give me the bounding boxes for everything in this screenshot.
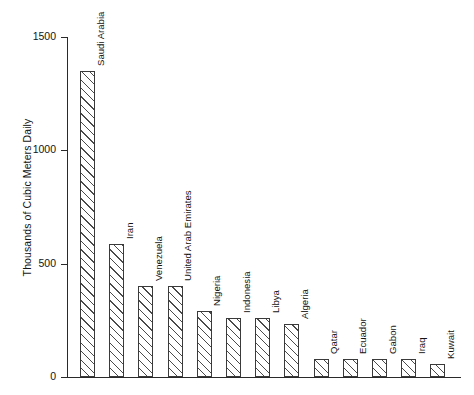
bar-kuwait (430, 364, 445, 377)
bar-qatar (314, 359, 329, 377)
bar-iraq (401, 359, 416, 377)
bar-label-nigeria: Nigeria (210, 276, 224, 306)
bar-indonesia (226, 318, 241, 377)
bar-nigeria (197, 311, 212, 377)
bar-label-iraq: Iraq (415, 337, 429, 354)
bar-label-kuwait: Kuwait (444, 330, 458, 359)
bar-algeria (284, 324, 299, 377)
y-tick-mark-0 (61, 377, 67, 378)
y-axis-title: Thousands of Cubic Meters Daily (18, 0, 36, 395)
bar-iran (109, 244, 124, 377)
bar-chart: Thousands of Cubic Meters Daily 0 500 10… (0, 0, 474, 395)
bar-label-saudi-arabia: Saudi Arabia (94, 12, 108, 66)
y-tick-label-1000: 1000 (3, 143, 56, 155)
y-tick-label-0: 0 (3, 370, 56, 382)
x-axis-line (67, 377, 461, 378)
bar-label-libya: Libya (269, 290, 283, 313)
y-tick-mark-500 (61, 264, 67, 265)
bar-label-venezuela: Venezuela (152, 237, 166, 282)
y-axis-line (67, 37, 68, 378)
bar-gabon (372, 359, 387, 377)
bar-saudi-arabia (80, 71, 95, 377)
bar-label-indonesia: Indonesia (240, 271, 254, 313)
bar-label-qatar: Qatar (327, 330, 341, 354)
bar-libya (255, 318, 270, 377)
bar-label-iran: Iran (123, 223, 137, 240)
y-tick-label-1500: 1500 (3, 30, 56, 42)
bar-venezuela (138, 286, 153, 377)
bar-ecuador (343, 359, 358, 377)
y-tick-mark-1500 (61, 37, 67, 38)
bar-united-arab-emirates (168, 286, 183, 377)
y-tick-label-500: 500 (3, 257, 56, 269)
bar-label-ecuador: Ecuador (356, 318, 370, 354)
bar-label-united-arab-emirates: United Arab Emirates (181, 191, 195, 282)
bar-label-algeria: Algeria (298, 289, 312, 319)
bar-label-gabon: Gabon (386, 325, 400, 354)
y-tick-mark-1000 (61, 150, 67, 151)
